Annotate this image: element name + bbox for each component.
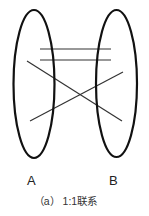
connection-line-3 [27,61,122,121]
entity-sets [14,10,138,158]
relationship-diagram [0,0,149,216]
connection-lines [27,49,123,121]
connection-line-4 [30,72,123,121]
figure-caption: （a） 1:1联系 [0,196,131,207]
set-ellipse-a [14,10,55,158]
set-label-a: A [27,174,36,187]
set-label-b: B [109,174,118,187]
